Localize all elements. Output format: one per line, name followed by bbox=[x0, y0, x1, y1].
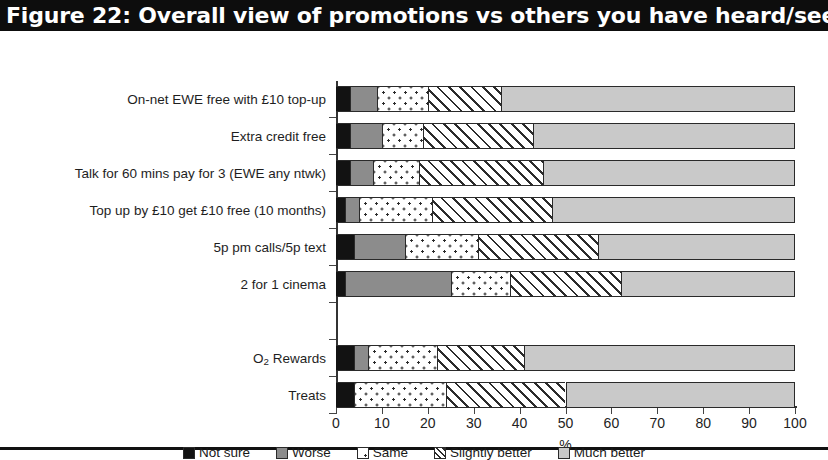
bar-segment-worse[interactable] bbox=[345, 197, 359, 223]
bar-segment-same[interactable] bbox=[405, 234, 478, 260]
y-axis-tick bbox=[329, 265, 336, 266]
bar-segment-slightly-better[interactable] bbox=[432, 197, 551, 223]
x-axis-tick-label: 10 bbox=[374, 415, 390, 431]
legend-item[interactable]: Much better bbox=[558, 445, 645, 460]
x-axis-tick-label: 0 bbox=[332, 415, 340, 431]
chart-plot-area: 0102030405060708090100 On-net EWE free w… bbox=[336, 81, 795, 406]
y-axis-category-label: Treats bbox=[6, 389, 326, 403]
bar-segment-same[interactable] bbox=[451, 271, 511, 297]
x-axis-tick-label: 20 bbox=[420, 415, 436, 431]
figure-title-banner: Figure 22: Overall view of promotions vs… bbox=[0, 0, 828, 31]
x-axis-tick bbox=[566, 408, 567, 414]
x-axis-tick-label: 70 bbox=[650, 415, 666, 431]
y-axis-tick bbox=[329, 117, 336, 118]
x-axis-tick bbox=[611, 408, 612, 414]
y-axis-tick bbox=[329, 302, 336, 303]
legend-item[interactable]: Worse bbox=[276, 445, 331, 460]
x-axis-tick-label: 60 bbox=[604, 415, 620, 431]
bar-segment-worse[interactable] bbox=[354, 234, 404, 260]
page-title: Figure 22: Overall view of promotions vs… bbox=[6, 3, 828, 28]
x-axis-tick-label: 40 bbox=[512, 415, 528, 431]
x-axis-tick-label: 50 bbox=[558, 415, 574, 431]
bar-segment-same[interactable] bbox=[368, 345, 437, 371]
legend-label: Worse bbox=[292, 445, 331, 460]
bar-segment-slightly-better[interactable] bbox=[478, 234, 597, 260]
x-axis-tick-label: 80 bbox=[695, 415, 711, 431]
bar-segment-same[interactable] bbox=[382, 123, 423, 149]
y-axis-tick bbox=[329, 191, 336, 192]
y-axis-category-label: On-net EWE free with £10 top-up bbox=[6, 93, 326, 107]
bar-segment-worse[interactable] bbox=[350, 160, 373, 186]
legend-swatch-icon bbox=[276, 447, 288, 459]
y-axis-tick bbox=[329, 228, 336, 229]
x-axis-tick bbox=[428, 408, 429, 414]
bar-segment-much-better[interactable] bbox=[501, 86, 795, 112]
x-axis-tick bbox=[795, 408, 796, 414]
bar-segment-worse[interactable] bbox=[350, 86, 378, 112]
legend-label: Slightly better bbox=[450, 445, 532, 460]
legend-swatch-icon bbox=[558, 447, 570, 459]
legend-label: Much better bbox=[574, 445, 645, 460]
legend-swatch-icon bbox=[357, 447, 369, 459]
x-axis-tick bbox=[520, 408, 521, 414]
x-axis-tick bbox=[749, 408, 750, 414]
bar-segment-slightly-better[interactable] bbox=[428, 86, 501, 112]
bar-segment-much-better[interactable] bbox=[533, 123, 795, 149]
y-axis-category-label: O2 Rewards bbox=[6, 352, 326, 367]
legend-label: Not sure bbox=[199, 445, 250, 460]
bar-segment-much-better[interactable] bbox=[543, 160, 795, 186]
bar-segment-much-better[interactable] bbox=[524, 345, 795, 371]
bar-segment-not-sure[interactable] bbox=[336, 197, 345, 223]
x-axis-tick bbox=[657, 408, 658, 414]
y-axis-tick bbox=[329, 154, 336, 155]
y-axis-category-label: Talk for 60 mins pay for 3 (EWE any ntwk… bbox=[6, 167, 326, 181]
bar-segment-slightly-better[interactable] bbox=[446, 382, 565, 408]
y-axis-category-label: Extra credit free bbox=[6, 130, 326, 144]
x-axis-tick bbox=[703, 408, 704, 414]
bar-segment-worse[interactable] bbox=[350, 123, 382, 149]
bar-segment-not-sure[interactable] bbox=[336, 86, 350, 112]
bar-segment-not-sure[interactable] bbox=[336, 271, 345, 297]
legend-item[interactable]: Slightly better bbox=[434, 445, 532, 460]
x-axis-tick bbox=[336, 408, 337, 414]
y-axis-tick bbox=[329, 339, 336, 340]
bar-segment-worse[interactable] bbox=[354, 345, 368, 371]
y-axis-category-label: 2 for 1 cinema bbox=[6, 278, 326, 292]
bar-segment-slightly-better[interactable] bbox=[437, 345, 524, 371]
bar-segment-slightly-better[interactable] bbox=[510, 271, 620, 297]
x-axis-tick-label: 30 bbox=[466, 415, 482, 431]
bar-segment-slightly-better[interactable] bbox=[419, 160, 543, 186]
bar-segment-much-better[interactable] bbox=[552, 197, 795, 223]
x-axis-tick-label: 100 bbox=[783, 415, 806, 431]
chart-legend: Not sureWorseSameSlightly betterMuch bet… bbox=[0, 445, 828, 460]
bar-segment-not-sure[interactable] bbox=[336, 345, 354, 371]
bar-segment-not-sure[interactable] bbox=[336, 234, 354, 260]
x-axis-tick bbox=[474, 408, 475, 414]
legend-swatch-icon bbox=[183, 447, 195, 459]
bar-segment-not-sure[interactable] bbox=[336, 160, 350, 186]
bar-segment-worse[interactable] bbox=[345, 271, 451, 297]
x-axis-tick bbox=[382, 408, 383, 414]
bar-segment-same[interactable] bbox=[377, 86, 427, 112]
y-axis-tick bbox=[329, 376, 336, 377]
figure-body: 0102030405060708090100 On-net EWE free w… bbox=[0, 31, 828, 450]
bar-segment-not-sure[interactable] bbox=[336, 382, 354, 408]
legend-swatch-icon bbox=[434, 447, 446, 459]
x-axis-tick-label: 90 bbox=[741, 415, 757, 431]
bar-segment-not-sure[interactable] bbox=[336, 123, 350, 149]
bar-segment-same[interactable] bbox=[359, 197, 432, 223]
y-axis-category-label: Top up by £10 get £10 free (10 months) bbox=[6, 204, 326, 218]
bar-segment-same[interactable] bbox=[373, 160, 419, 186]
legend-label: Same bbox=[373, 445, 408, 460]
legend-item[interactable]: Same bbox=[357, 445, 408, 460]
bar-segment-slightly-better[interactable] bbox=[423, 123, 533, 149]
bar-segment-same[interactable] bbox=[354, 382, 446, 408]
legend-item[interactable]: Not sure bbox=[183, 445, 250, 460]
bar-segment-much-better[interactable] bbox=[598, 234, 795, 260]
y-axis-category-label: 5p pm calls/5p text bbox=[6, 241, 326, 255]
bar-segment-much-better[interactable] bbox=[566, 382, 796, 408]
bar-segment-much-better[interactable] bbox=[621, 271, 795, 297]
y-axis-tick bbox=[329, 413, 336, 414]
